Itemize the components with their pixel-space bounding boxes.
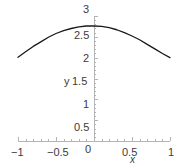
x-tick-label-neg1: −1 xyxy=(11,147,24,158)
y-tick-label-2_5: 2.5 xyxy=(74,30,89,41)
axis-layer xyxy=(18,16,171,141)
x-tick-label-0: 0 xyxy=(85,144,91,155)
y-tick-label-1_5: 1.5 xyxy=(72,76,87,87)
y-tick-label-0_5: 0.5 xyxy=(74,122,89,133)
y-tick-label-2: 2 xyxy=(83,53,89,64)
y-tick-label-3: 3 xyxy=(83,4,89,15)
x-tick-label-1: 1 xyxy=(168,147,174,158)
x-tick-label-neg0_5: −0.5 xyxy=(47,147,69,158)
chart-plot-area: 3 2.5 2 y 1.5 1 0.5 −1 −0.5 0 0.5 x 1 xyxy=(0,0,181,168)
y-axis-title: y xyxy=(64,76,70,87)
x-axis-title: x xyxy=(130,155,135,165)
y-tick-label-1: 1 xyxy=(83,99,89,110)
